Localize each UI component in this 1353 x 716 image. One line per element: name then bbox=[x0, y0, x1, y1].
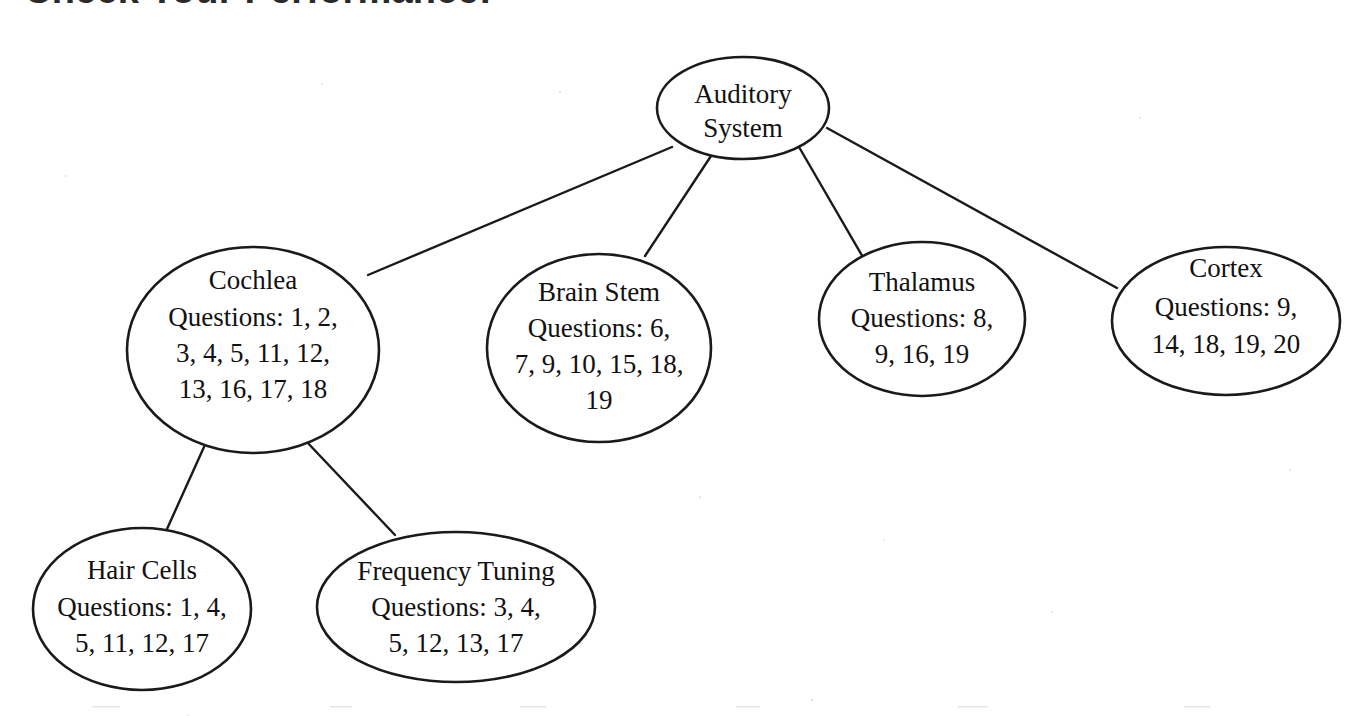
svg-text:9, 16, 19: 9, 16, 19 bbox=[875, 339, 970, 369]
diagram-page: Check Your Performance! Auditory System bbox=[0, 0, 1353, 716]
node-frequency-tuning-questions-line2: 5, 12, 13, 17 bbox=[389, 628, 524, 658]
node-thalamus-title: Thalamus bbox=[869, 267, 975, 297]
svg-text:Cochlea: Cochlea bbox=[209, 265, 297, 295]
node-brain-stem-questions-line2: 7, 9, 10, 15, 18, bbox=[515, 349, 684, 379]
node-cortex[interactable]: Cortex Questions: 9, 14, 18, 19, 20 bbox=[1112, 247, 1340, 395]
node-frequency-tuning[interactable]: Frequency Tuning Questions: 3, 4, 5, 12,… bbox=[317, 532, 595, 682]
node-auditory-system[interactable]: Auditory System bbox=[657, 57, 829, 159]
node-cochlea[interactable]: Cochlea Questions: 1, 2, 3, 4, 5, 11, 12… bbox=[127, 247, 379, 453]
edge-auditory-system-to-brain-stem bbox=[645, 156, 711, 256]
svg-text:Questions: 9,: Questions: 9, bbox=[1155, 292, 1298, 322]
svg-text:19: 19 bbox=[586, 385, 613, 415]
svg-text:Questions: 8,: Questions: 8, bbox=[851, 303, 994, 333]
node-frequency-tuning-title: Frequency Tuning bbox=[357, 556, 554, 586]
svg-text:7, 9, 10, 15, 18,: 7, 9, 10, 15, 18, bbox=[515, 349, 684, 379]
svg-text:Thalamus: Thalamus bbox=[869, 267, 975, 297]
svg-text:5, 12, 13, 17: 5, 12, 13, 17 bbox=[389, 628, 524, 658]
svg-text:Frequency Tuning: Frequency Tuning bbox=[357, 556, 554, 586]
node-thalamus-questions-line1: Questions: 8, bbox=[851, 303, 994, 333]
svg-text:Hair Cells: Hair Cells bbox=[87, 555, 197, 585]
edge-cochlea-to-hair-cells bbox=[167, 447, 204, 529]
node-auditory-system-title-line2: System bbox=[703, 113, 783, 143]
node-cochlea-questions-line3: 13, 16, 17, 18 bbox=[179, 374, 328, 404]
node-hair-cells-questions-line1: Questions: 1, 4, bbox=[57, 592, 227, 622]
node-thalamus-questions-line2: 9, 16, 19 bbox=[875, 339, 970, 369]
svg-text:Questions: 6,: Questions: 6, bbox=[528, 313, 671, 343]
node-cochlea-questions-line1: Questions: 1, 2, bbox=[168, 302, 338, 332]
svg-text:Cortex: Cortex bbox=[1189, 253, 1263, 283]
svg-text:Questions: 3, 4,: Questions: 3, 4, bbox=[371, 592, 541, 622]
node-hair-cells-title: Hair Cells bbox=[87, 555, 197, 585]
svg-text:3, 4, 5, 11, 12,: 3, 4, 5, 11, 12, bbox=[176, 338, 330, 368]
node-hair-cells[interactable]: Hair Cells Questions: 1, 4, 5, 11, 12, 1… bbox=[33, 528, 251, 690]
node-brain-stem-questions-line3: 19 bbox=[586, 385, 613, 415]
svg-text:Questions: 1, 2,: Questions: 1, 2, bbox=[168, 302, 338, 332]
node-hair-cells-questions-line2: 5, 11, 12, 17 bbox=[75, 628, 209, 658]
auditory-system-tree-diagram: Auditory System Cochlea Questions: 1, 2,… bbox=[0, 0, 1353, 716]
svg-text:Brain Stem: Brain Stem bbox=[538, 277, 660, 307]
node-thalamus[interactable]: Thalamus Questions: 8, 9, 16, 19 bbox=[819, 242, 1025, 396]
svg-text:5, 11, 12, 17: 5, 11, 12, 17 bbox=[75, 628, 209, 658]
node-cochlea-title: Cochlea bbox=[209, 265, 297, 295]
edge-cochlea-to-frequency-tuning bbox=[305, 440, 395, 535]
edge-auditory-system-to-thalamus bbox=[799, 147, 864, 259]
svg-text:Questions: 1, 4,: Questions: 1, 4, bbox=[57, 592, 227, 622]
node-frequency-tuning-questions-line1: Questions: 3, 4, bbox=[371, 592, 541, 622]
node-cortex-questions-line1: Questions: 9, bbox=[1155, 292, 1298, 322]
node-cochlea-questions-line2: 3, 4, 5, 11, 12, bbox=[176, 338, 330, 368]
svg-text:Auditory: Auditory bbox=[694, 79, 792, 109]
node-brain-stem-title: Brain Stem bbox=[538, 277, 660, 307]
node-brain-stem-questions-line1: Questions: 6, bbox=[528, 313, 671, 343]
svg-text:System: System bbox=[703, 113, 783, 143]
node-cortex-questions-line2: 14, 18, 19, 20 bbox=[1152, 329, 1301, 359]
node-brain-stem[interactable]: Brain Stem Questions: 6, 7, 9, 10, 15, 1… bbox=[487, 254, 711, 442]
node-auditory-system-title: Auditory bbox=[694, 79, 792, 109]
svg-text:14, 18, 19, 20: 14, 18, 19, 20 bbox=[1152, 329, 1301, 359]
node-cortex-title: Cortex bbox=[1189, 253, 1263, 283]
svg-text:13, 16, 17, 18: 13, 16, 17, 18 bbox=[179, 374, 328, 404]
